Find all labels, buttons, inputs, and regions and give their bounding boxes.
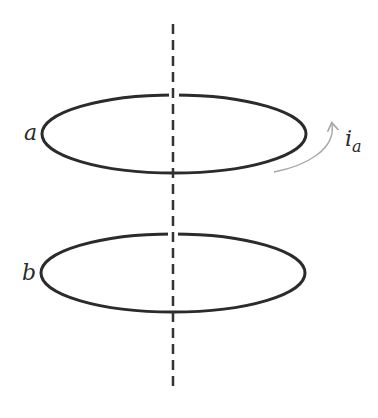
current-label: ia: [345, 126, 362, 156]
current-arrow-icon: [274, 124, 332, 172]
current-label-main: i: [345, 126, 352, 151]
loop-a-label: a: [24, 120, 37, 145]
diagram-canvas: a b ia: [0, 0, 378, 418]
loop-b-label: b: [22, 260, 36, 285]
current-label-subscript: a: [352, 137, 362, 156]
